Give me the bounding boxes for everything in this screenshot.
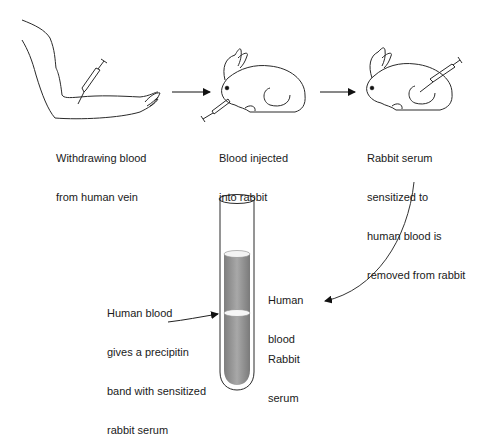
rabbit-serum-removed-illustration [367,48,453,110]
precipitin-band [224,310,250,317]
rabbit-injected-illustration [222,49,306,112]
human-arm-illustration [22,20,160,119]
label-rabbit-serum-layer: Rabbit serum [268,327,300,418]
test-tube-illustration [219,195,255,391]
label-precipitin-band-callout: Human blood gives a precipitin band with… [107,281,206,438]
caption-rabbit-serum-removed: Rabbit serum sensitized to human blood i… [367,126,465,295]
syringe-rabbit-back-icon [420,57,462,92]
syringe-rabbit-mouth-icon [201,99,230,122]
human-blood-surface [224,251,250,258]
caption-withdrawing-blood: Withdrawing blood from human vein [56,126,147,217]
caption-blood-injected: Blood injected into rabbit [219,126,288,217]
